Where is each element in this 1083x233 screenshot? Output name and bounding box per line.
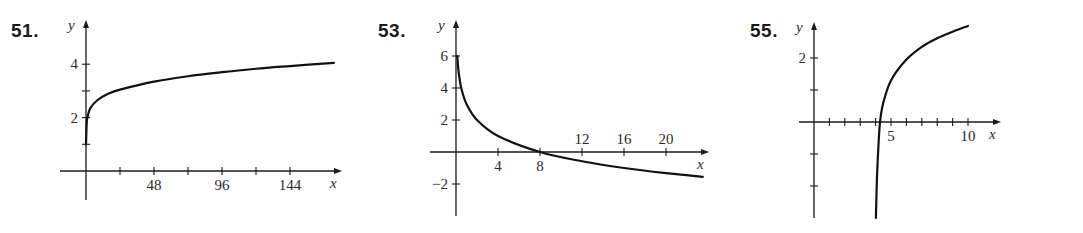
x-arrow-icon xyxy=(701,149,709,155)
x-tick-label: 16 xyxy=(617,131,633,147)
y-tick-label: −2 xyxy=(432,176,448,192)
plot-area: xy5102 xyxy=(740,0,1083,233)
y-axis-label: y xyxy=(66,17,75,33)
y-tick-label: 4 xyxy=(441,80,449,96)
y-tick-label: 2 xyxy=(799,50,807,66)
x-tick-label: 48 xyxy=(147,177,162,193)
x-tick-label: 5 xyxy=(887,128,895,144)
x-tick-label: 20 xyxy=(659,131,674,147)
function-curve xyxy=(86,63,334,144)
x-arrow-icon xyxy=(993,119,1001,125)
chart-53: 53. xy48121620−2246 xyxy=(370,0,730,233)
x-tick-label: 144 xyxy=(279,177,302,193)
y-arrow-icon xyxy=(453,20,459,28)
x-tick-label: 12 xyxy=(575,131,590,147)
chart-55: 55. xy5102 xyxy=(740,0,1083,233)
x-tick-label: 4 xyxy=(494,158,502,174)
chart-51: 51. xy489614424 xyxy=(0,0,360,233)
y-arrow-icon xyxy=(83,20,89,28)
x-tick-label: 10 xyxy=(961,128,976,144)
plot-area: xy489614424 xyxy=(0,0,360,233)
plot-area: xy48121620−2246 xyxy=(370,0,730,233)
y-axis-label: y xyxy=(794,19,803,35)
y-tick-label: 2 xyxy=(71,110,79,126)
x-arrow-icon xyxy=(334,168,342,174)
x-tick-label: 96 xyxy=(215,177,231,193)
y-tick-label: 4 xyxy=(71,56,79,72)
y-arrow-icon xyxy=(811,22,817,30)
y-tick-label: 2 xyxy=(441,112,449,128)
x-axis-label: x xyxy=(988,126,996,142)
x-axis-label: x xyxy=(696,156,704,172)
x-tick-label: 8 xyxy=(536,158,544,174)
y-tick-label: 6 xyxy=(441,48,449,64)
y-axis-label: y xyxy=(436,17,445,33)
x-axis-label: x xyxy=(329,175,337,191)
